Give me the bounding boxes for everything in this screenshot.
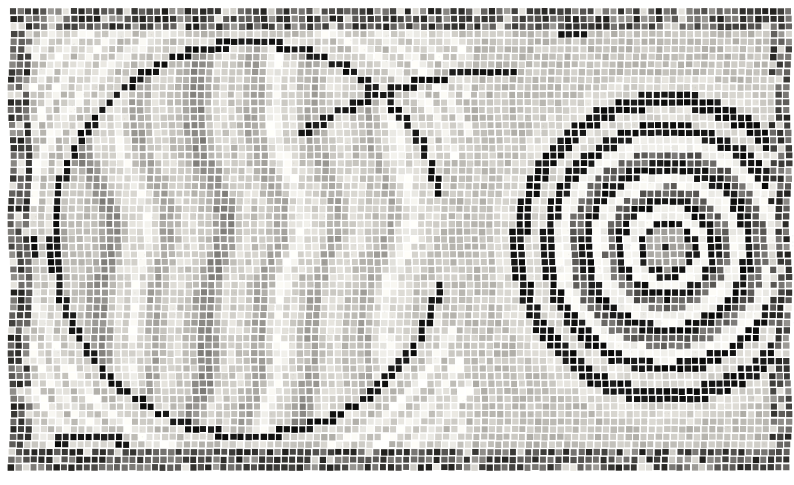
mosaic-image-canvas: Abstract grayscale mosaic panel bbox=[0, 0, 794, 485]
mosaic-artwork bbox=[0, 0, 794, 485]
